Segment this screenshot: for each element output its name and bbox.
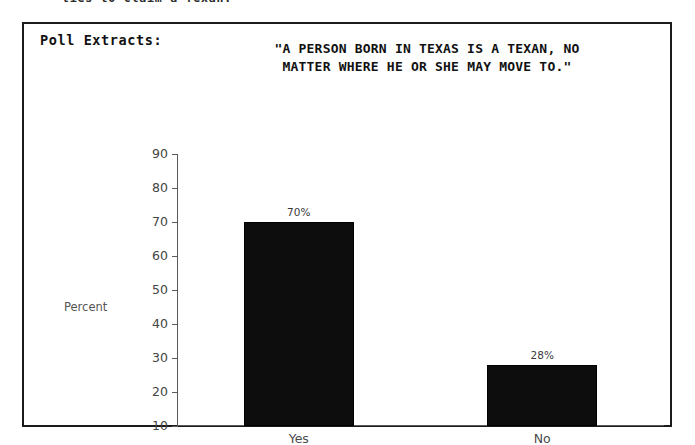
- quote-line-1: "A PERSON BORN IN TEXAS IS A TEXAN, NO: [202, 40, 652, 58]
- y-tick-mark: [172, 392, 178, 393]
- bar-chart: Percent 908070605040302010 70%28% YesNo: [24, 132, 670, 425]
- y-tick-mark: [172, 290, 178, 291]
- y-tick-mark: [172, 256, 178, 257]
- y-tick-label: 10: [152, 418, 168, 433]
- bar-value-label: 70%: [259, 206, 339, 218]
- bar-value-label: 28%: [502, 349, 582, 361]
- y-tick-label: 80: [152, 180, 168, 195]
- y-tick-mark: [172, 222, 178, 223]
- y-tick-label: 60: [152, 248, 168, 263]
- panel-header: Poll Extracts: "A PERSON BORN IN TEXAS I…: [24, 24, 670, 94]
- category-label-yes: Yes: [249, 431, 349, 445]
- bar-yes: [244, 222, 354, 426]
- y-tick-mark: [172, 154, 178, 155]
- y-tick-mark: [172, 358, 178, 359]
- y-tick-mark: [172, 426, 178, 427]
- y-tick-mark: [172, 324, 178, 325]
- top-cutoff-text-sliver: ties to claim a Texan.: [0, 0, 695, 5]
- y-tick-label: 30: [152, 350, 168, 365]
- poll-extract-panel: Poll Extracts: "A PERSON BORN IN TEXAS I…: [22, 22, 672, 427]
- poll-question-quote: "A PERSON BORN IN TEXAS IS A TEXAN, NO M…: [202, 40, 652, 76]
- y-tick-mark: [172, 188, 178, 189]
- bar-no: [487, 365, 597, 426]
- y-tick-label: 50: [152, 282, 168, 297]
- y-tick-label: 90: [152, 146, 168, 161]
- top-cutoff-text: ties to claim a Texan.: [0, 0, 695, 5]
- y-tick-label: 40: [152, 316, 168, 331]
- y-tick-label: 20: [152, 384, 168, 399]
- y-tick-label: 70: [152, 214, 168, 229]
- quote-line-2: MATTER WHERE HE OR SHE MAY MOVE TO.": [202, 58, 652, 76]
- poll-extracts-label: Poll Extracts:: [40, 32, 162, 48]
- y-axis-title: Percent: [64, 300, 107, 314]
- category-label-no: No: [492, 431, 592, 445]
- plot-area: 908070605040302010 70%28% YesNo: [177, 154, 664, 426]
